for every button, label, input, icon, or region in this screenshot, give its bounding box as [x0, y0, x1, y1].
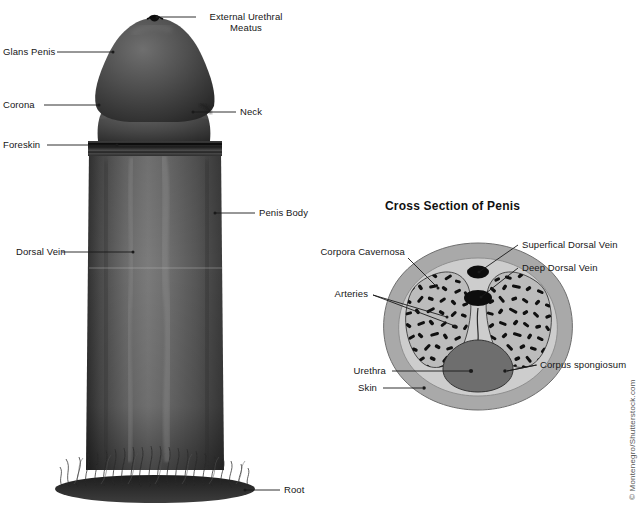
- label-dorsal-vein: Dorsal Vein: [16, 246, 66, 257]
- label-external-urethral-meatus-line2: Meatus: [230, 22, 262, 33]
- label-glans-penis: Glans Penis: [3, 46, 55, 57]
- anatomy-figure: External Urethral Meatus Glans Penis Cor…: [0, 0, 639, 507]
- label-urethra: Urethra: [324, 365, 386, 376]
- label-penis-body: Penis Body: [259, 207, 308, 218]
- label-external-urethral-meatus-line1: External Urethral: [210, 11, 283, 22]
- label-superficial-dorsal-vein: Superfical Dorsal Vein: [522, 239, 618, 250]
- label-foreskin: Foreskin: [3, 139, 40, 150]
- label-skin: Skin: [324, 382, 377, 393]
- label-corona: Corona: [3, 99, 35, 110]
- label-arteries: Arteries: [300, 288, 368, 299]
- label-root: Root: [284, 484, 304, 495]
- label-corpus-spongiosum: Corpus spongiosum: [540, 359, 626, 370]
- label-corpora-cavernosa: Corpora Cavernosa: [307, 246, 405, 257]
- label-neck: Neck: [240, 106, 262, 117]
- cross-section-title: Cross Section of Penis: [385, 199, 520, 213]
- label-deep-dorsal-vein: Deep Dorsal Vein: [522, 262, 598, 273]
- image-credit: © Montenegro/Shutterstock.com: [628, 379, 637, 500]
- label-external-urethral-meatus: External Urethral Meatus: [198, 11, 294, 33]
